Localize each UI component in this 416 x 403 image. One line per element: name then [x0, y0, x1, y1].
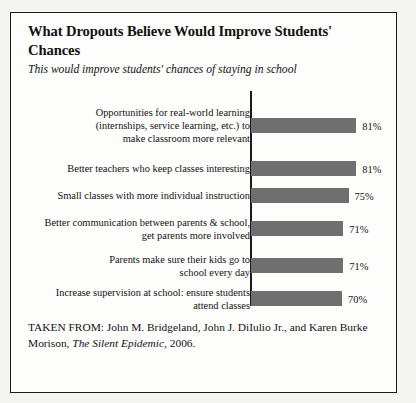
chart-title: What Dropouts Believe Would Improve Stud…	[28, 22, 372, 61]
bar-category-label: Increase supervision at school: ensure s…	[30, 287, 250, 312]
bar	[251, 221, 343, 236]
bar-row: Parents make sure their kids go toschool…	[11, 258, 398, 274]
bar-value-label: 81%	[362, 119, 381, 134]
bar-category-label-line: Opportunities for real-world learning	[30, 107, 250, 120]
bar	[251, 118, 356, 133]
bar-category-label-line: attend classes	[30, 300, 250, 313]
bar-category-label-line: Small classes with more individual instr…	[30, 190, 250, 203]
bar-category-label-line: get parents more involved	[30, 230, 250, 243]
bar-category-label: Better teachers who keep classes interes…	[30, 163, 250, 176]
bar-row: Better communication between parents & s…	[11, 221, 398, 237]
bar-row: Small classes with more individual instr…	[11, 188, 398, 204]
bar-category-label: Opportunities for real-world learning(in…	[30, 107, 250, 145]
bar	[251, 161, 356, 176]
bar-category-label-line: school every day	[30, 267, 250, 280]
bar-category-label-line: make classroom more relevant	[30, 133, 250, 146]
figure-inner: What Dropouts Believe Would Improve Stud…	[11, 13, 396, 392]
bar-row: Increase supervision at school: ensure s…	[11, 291, 398, 307]
chart-subtitle: This would improve students' chances of …	[28, 63, 376, 77]
bar	[251, 291, 342, 306]
bar-value-label: 71%	[349, 259, 368, 274]
bar-value-label: 71%	[349, 222, 368, 237]
bar-category-label-line: Better communication between parents & s…	[30, 217, 250, 230]
bar-value-label: 81%	[362, 162, 381, 177]
bar-chart-plot-area: Opportunities for real-world learning(in…	[11, 89, 398, 307]
bar-row: Opportunities for real-world learning(in…	[11, 118, 398, 134]
bar	[251, 188, 349, 203]
source-work-title: The Silent Epidemic	[72, 337, 164, 349]
bar-category-label: Small classes with more individual instr…	[30, 190, 250, 203]
bar-category-label: Parents make sure their kids go toschool…	[30, 254, 250, 279]
bar	[251, 258, 343, 273]
bar-value-label: 75%	[355, 189, 374, 204]
bar-value-label: 70%	[348, 292, 367, 307]
source-suffix: , 2006.	[164, 337, 195, 349]
bar-category-label: Better communication between parents & s…	[30, 217, 250, 242]
bar-category-label-line: Parents make sure their kids go to	[30, 254, 250, 267]
bar-category-label-line: (internships, service learning, etc.) to	[30, 120, 250, 133]
bar-row: Better teachers who keep classes interes…	[11, 161, 398, 177]
bar-category-label-line: Better teachers who keep classes interes…	[30, 163, 250, 176]
bar-category-label-line: Increase supervision at school: ensure s…	[30, 287, 250, 300]
figure-frame: What Dropouts Believe Would Improve Stud…	[10, 12, 397, 393]
source-note: TAKEN FROM: John M. Bridgeland, John J. …	[28, 320, 378, 351]
